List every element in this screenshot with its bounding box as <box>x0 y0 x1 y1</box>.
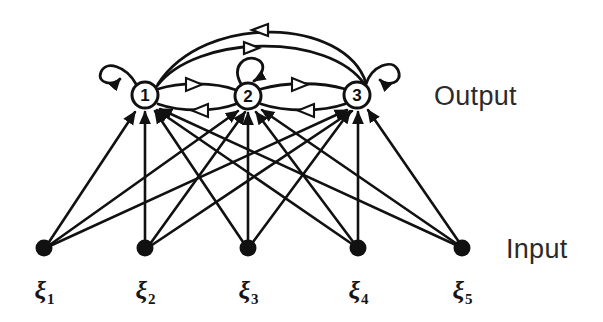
recurrent-edge-o3-to-o1 <box>158 32 366 84</box>
input-unit-label-4: ξ4 <box>348 278 367 304</box>
input-unit-label-5: ξ5 <box>452 278 471 304</box>
arrowhead-hollow-right <box>292 78 308 91</box>
output-node-2[interactable]: 2 <box>235 83 261 109</box>
input-unit-label-3: ξ3 <box>238 278 257 304</box>
self-loop-o2 <box>238 58 263 84</box>
input-node-1[interactable] <box>36 240 53 257</box>
input-node-group <box>36 240 471 257</box>
input-node-4[interactable] <box>350 240 367 257</box>
network-diagram-figure: 1 2 3 Output Input ξ1 ξ2 ξ3 <box>0 0 603 322</box>
output-layer-label: Output <box>434 83 517 110</box>
input-unit-symbol-4: ξ <box>348 276 360 305</box>
input-unit-symbol-2: ξ <box>135 276 147 305</box>
input-layer-label: Input <box>506 236 568 263</box>
output-node-1[interactable]: 1 <box>132 82 158 108</box>
output-node-3[interactable]: 3 <box>344 82 370 108</box>
input-unit-subscript-1: 1 <box>47 291 55 307</box>
input-node-2[interactable] <box>137 240 154 257</box>
input-node-3[interactable] <box>240 240 257 257</box>
self-loop-o3 <box>366 64 399 84</box>
feedforward-edge-group <box>49 109 459 245</box>
input-unit-symbol-1: ξ <box>34 276 46 305</box>
feedforward-edge <box>262 110 457 244</box>
arrowhead-hollow-right <box>244 42 259 54</box>
output-node-3-label: 3 <box>352 86 361 105</box>
output-node-1-label: 1 <box>140 86 149 105</box>
input-unit-subscript-2: 2 <box>148 291 156 307</box>
feedforward-edge <box>256 112 354 243</box>
feedforward-edge <box>49 112 135 242</box>
arrowhead-hollow-left <box>192 104 208 117</box>
input-unit-label-2: ξ2 <box>135 278 154 304</box>
input-unit-subscript-4: 4 <box>361 291 369 307</box>
network-graph-canvas: 1 2 3 <box>0 0 603 322</box>
input-unit-label-1: ξ1 <box>34 278 53 304</box>
output-node-2-label: 2 <box>243 87 252 106</box>
arrowhead-hollow-right <box>186 78 202 91</box>
feedforward-edge <box>155 111 243 242</box>
arrowhead-hollow-left <box>298 104 314 117</box>
self-loop-o1 <box>100 66 136 84</box>
input-node-5[interactable] <box>454 240 471 257</box>
arrowhead-hollow-left <box>252 24 268 36</box>
feedforward-edge <box>160 109 456 245</box>
long-arc-arrowheads <box>244 24 268 54</box>
input-unit-symbol-3: ξ <box>238 276 250 305</box>
input-unit-symbol-5: ξ <box>452 276 464 305</box>
input-unit-subscript-5: 5 <box>465 291 473 307</box>
feedforward-edge <box>368 110 459 242</box>
input-unit-subscript-3: 3 <box>251 291 259 307</box>
